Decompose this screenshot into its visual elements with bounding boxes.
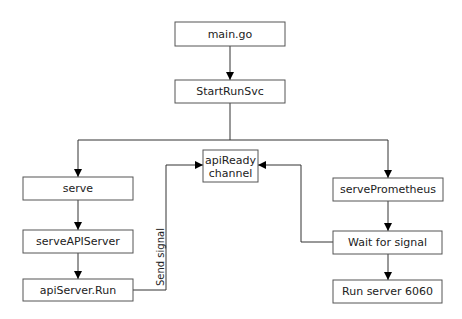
node-apiready-channel[interactable]: apiReady channel: [203, 150, 258, 182]
edge-apiserverrun-to-apiready: [133, 165, 203, 290]
node-label: apiServer.Run: [40, 284, 116, 297]
node-serve[interactable]: serve: [23, 177, 133, 200]
node-label: serve: [63, 182, 94, 195]
node-label: Wait for signal: [348, 236, 427, 249]
node-apiserver-run[interactable]: apiServer.Run: [23, 279, 133, 301]
node-label: servePrometheus: [340, 183, 436, 196]
node-run-server-6060[interactable]: Run server 6060: [333, 280, 442, 303]
node-label: serveAPIServer: [36, 235, 120, 248]
node-label: StartRunSvc: [196, 85, 264, 98]
node-label: main.go: [208, 28, 253, 41]
edge-waitforsignal-to-apiready: [258, 165, 333, 242]
flowchart-diagram: Send signal main.go StartRunSvc serve ap…: [0, 0, 462, 319]
node-label: Run server 6060: [342, 285, 433, 298]
node-main-go[interactable]: main.go: [175, 22, 285, 46]
node-startrunsvc[interactable]: StartRunSvc: [175, 80, 285, 103]
node-wait-for-signal[interactable]: Wait for signal: [333, 231, 442, 254]
node-label-line-2: channel: [209, 167, 253, 180]
node-serveapiserver[interactable]: serveAPIServer: [23, 230, 133, 253]
node-serveprometheus[interactable]: servePrometheus: [333, 178, 443, 201]
node-label-line-1: apiReady: [205, 154, 256, 167]
edge-label-send-signal: Send signal: [155, 228, 166, 286]
